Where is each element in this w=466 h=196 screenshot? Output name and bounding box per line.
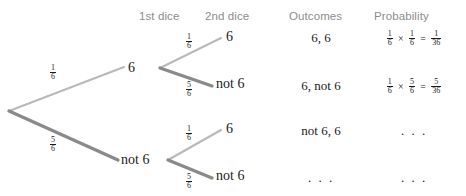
- outcome-row-2: 6, not 6: [273, 78, 369, 94]
- node-first-dice-not-six: not 6: [121, 152, 149, 168]
- times-operator-row-2: ×: [396, 81, 406, 92]
- probability-row-4: . . .: [358, 170, 466, 186]
- prob-result-row-2: 5 36: [431, 78, 441, 95]
- node-second-dice-six-2: 6: [226, 121, 233, 137]
- times-operator-row-1: ×: [396, 33, 406, 44]
- equals-operator-row-1: =: [418, 33, 428, 44]
- branch-prob-root-six: 1 6: [50, 64, 56, 81]
- outcome-row-4: . . .: [273, 170, 369, 186]
- node-second-dice-six-1: 6: [226, 29, 233, 45]
- branch-not-six-to-six: [168, 130, 221, 160]
- probability-tree-diagram: 1st dice 2nd dice Outcomes Probability 6…: [0, 0, 466, 196]
- branch-prob-not-six-six: 1 6: [186, 125, 192, 142]
- node-second-dice-not-six-2: not 6: [216, 168, 244, 184]
- probability-row-1: 1 6 × 1 6 = 1 36: [358, 30, 466, 48]
- branch-prob-not-six-not-six: 5 6: [186, 173, 192, 190]
- probability-row-3: . . .: [358, 123, 466, 139]
- equals-operator-row-2: =: [418, 81, 428, 92]
- branch-root-to-not-six: [9, 111, 118, 160]
- branch-prob-six-six: 1 6: [186, 33, 192, 50]
- node-first-dice-six: 6: [128, 60, 135, 76]
- outcome-row-1: 6, 6: [273, 30, 369, 46]
- prob-factor-b-row-1: 1 6: [409, 30, 415, 47]
- branch-prob-root-not-six: 5 6: [50, 136, 56, 153]
- branch-root-to-six: [9, 67, 124, 111]
- branch-prob-six-not-six: 5 6: [186, 81, 192, 98]
- prob-factor-b-row-2: 5 6: [409, 78, 415, 95]
- prob-result-row-1: 1 36: [431, 30, 441, 47]
- prob-factor-a-row-2: 1 6: [387, 78, 393, 95]
- node-second-dice-not-six-1: not 6: [216, 76, 244, 92]
- outcome-row-3: not 6, 6: [273, 123, 369, 139]
- prob-factor-a-row-1: 1 6: [387, 30, 393, 47]
- probability-row-2: 1 6 × 5 6 = 5 36: [358, 78, 466, 96]
